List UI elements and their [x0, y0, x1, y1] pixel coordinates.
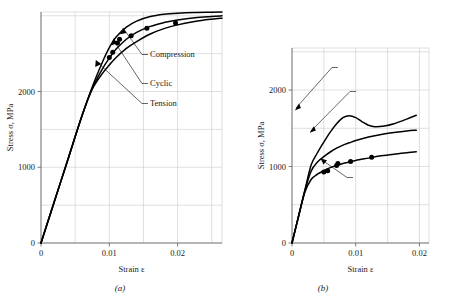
plot-frame [41, 12, 222, 243]
data-point-marker [117, 37, 122, 42]
plot-frame [292, 48, 429, 243]
data-point-marker [335, 161, 340, 166]
y-tick-label: 1000 [18, 162, 35, 172]
x-axis-title: Strain ε [119, 264, 145, 274]
x-tick-label: 0.02 [170, 248, 185, 258]
annotation-leader-tension [97, 62, 148, 104]
panel-b-caption: (b) [214, 283, 432, 293]
y-tick-label: 1000 [269, 162, 286, 172]
gridlines [41, 12, 222, 243]
y-tick-label: 2000 [18, 87, 35, 97]
data-point-marker [325, 168, 330, 173]
data-point-marker [173, 20, 178, 25]
data-point-marker [129, 33, 134, 38]
x-tick-label: 0.01 [102, 248, 117, 258]
panel-a-caption: (a) [4, 283, 236, 293]
annotation-label-compression: Compression [150, 49, 196, 59]
x-tick-label: 0.01 [348, 248, 363, 258]
gridlines [292, 48, 429, 243]
y-axis-title: Stress σ, MPa [5, 104, 15, 152]
chart-a-canvas: 01000200000.010.02Strain εStress σ, MPaC… [0, 0, 232, 299]
y-tick-label: 0 [31, 238, 35, 248]
annotation-label-cyclic: Cyclic [150, 78, 172, 88]
annotation-leader-compression [123, 28, 148, 55]
annotation-arrowhead-tension [295, 104, 301, 111]
annotation-leader-cyclic [114, 41, 148, 84]
chart-b-canvas: 01000200000.010.02Strain εStress σ, MPaT… [232, 0, 450, 299]
data-point-marker [107, 55, 112, 60]
x-tick-label: 0.02 [412, 248, 427, 258]
annotation-arrowhead-cyclic [321, 159, 327, 165]
curve-compression [292, 130, 416, 243]
data-point-marker [144, 26, 149, 31]
x-axis-title: Strain ε [348, 264, 374, 274]
plot-group: 01000200000.010.02Strain εStress σ, MPa [256, 48, 429, 274]
x-tick-label: 0 [39, 248, 43, 258]
annotation-label-tension: Tension [150, 98, 178, 108]
chart-panel-a: 01000200000.010.02Strain εStress σ, MPaC… [0, 0, 232, 299]
data-point-marker [348, 159, 353, 164]
annotation-leader-tension [296, 68, 338, 109]
x-tick-label: 0 [290, 248, 294, 258]
data-point-marker [110, 50, 115, 55]
y-tick-label: 0 [282, 238, 286, 248]
curve-compression [41, 12, 222, 243]
chart-panel-b: 01000200000.010.02Strain εStress σ, MPaT… [232, 0, 450, 299]
y-axis-title: Stress σ, MPa [256, 122, 266, 170]
figure-container: 01000200000.010.02Strain εStress σ, MPaC… [0, 0, 450, 299]
y-tick-label: 2000 [269, 85, 286, 95]
annotation-leader-compression [311, 92, 356, 132]
data-point-marker [369, 155, 374, 160]
